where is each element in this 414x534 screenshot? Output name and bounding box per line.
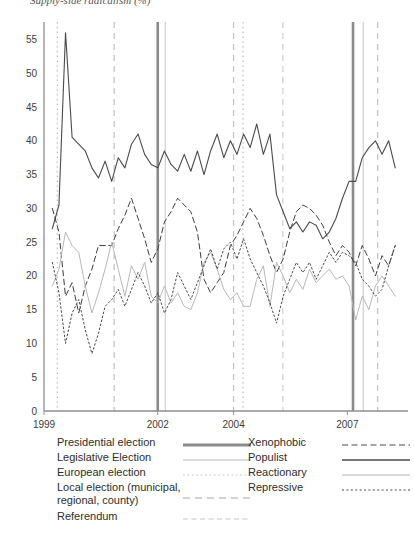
legend-event-key-swatch xyxy=(183,516,253,524)
legend-series-item: Reactionary xyxy=(248,466,414,480)
legend-series-item: Repressive xyxy=(248,481,414,495)
legend-series-item: Xenophobic xyxy=(248,436,414,450)
legend-series-key-swatch xyxy=(342,442,412,450)
y-axis-tick-label: 35 xyxy=(26,169,38,180)
series-line-repressive xyxy=(52,239,395,354)
y-axis-tick-label: 0 xyxy=(31,406,37,417)
series-line-xenophobic xyxy=(52,198,395,313)
legend-event-key-swatch xyxy=(183,442,253,450)
legend-series-key-swatch xyxy=(342,487,412,495)
legend-event-key-swatch xyxy=(183,495,253,503)
y-axis-tick-label: 5 xyxy=(31,372,37,383)
series-group xyxy=(52,33,395,354)
y-axis-tick-label: 50 xyxy=(26,68,38,79)
y-axis-tick-label: 45 xyxy=(26,102,38,113)
y-axis-tick-label: 25 xyxy=(26,237,38,248)
legend-event-item: Referendum xyxy=(57,510,247,524)
legend-series-key-swatch xyxy=(342,472,412,480)
legend-event-item: Presidential election xyxy=(57,436,247,450)
axes-group: 05101520253035404550551999200220042007 xyxy=(26,22,408,430)
y-axis-tick-label: 30 xyxy=(26,203,38,214)
x-axis-tick-label: 1999 xyxy=(33,419,56,430)
y-axis-tick-label: 15 xyxy=(26,304,38,315)
legend-event-key-swatch xyxy=(183,457,253,465)
series-line-populist xyxy=(52,33,395,239)
legend-series-key-swatch xyxy=(342,457,412,465)
y-axis-tick-label: 40 xyxy=(26,135,38,146)
event-lines-group xyxy=(57,22,377,411)
x-axis-tick-label: 2002 xyxy=(147,419,170,430)
line-chart-plot: 05101520253035404550551999200220042007 xyxy=(0,0,414,432)
chart-root: Supply-side radicalism (%) 0510152025303… xyxy=(0,0,414,534)
legend-event-key-swatch xyxy=(183,472,253,480)
legend-event-label: Local election (municipal, regional, cou… xyxy=(57,481,247,507)
legend-column-events: Presidential electionLegislative Electio… xyxy=(57,436,247,525)
y-axis-tick-label: 55 xyxy=(26,34,38,45)
x-axis-tick-label: 2004 xyxy=(222,419,245,430)
legend-series-item: Populist xyxy=(248,451,414,465)
legend-event-item: European election xyxy=(57,466,247,480)
legend-event-item: Local election (municipal, regional, cou… xyxy=(57,481,247,509)
legend-event-item: Legislative Election xyxy=(57,451,247,465)
y-axis-tick-label: 10 xyxy=(26,338,38,349)
y-axis-tick-label: 20 xyxy=(26,270,38,281)
legend-column-series: XenophobicPopulistReactionaryRepressive xyxy=(248,436,414,496)
chart-legend: Presidential electionLegislative Electio… xyxy=(0,432,414,534)
x-axis-tick-label: 2007 xyxy=(336,419,359,430)
